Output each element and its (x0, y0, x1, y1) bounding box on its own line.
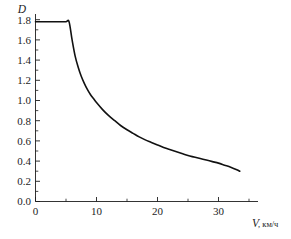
x-axis-label: V , км/ч (252, 217, 279, 229)
y-tick-label: 0.0 (17, 195, 31, 207)
x-axis-label-unit: , км/ч (258, 219, 279, 229)
y-tick-label: 1.0 (17, 94, 31, 106)
y-axis-tick-labels: 0.0 0.2 0.4 0.6 0.8 1.0 1.2 1.4 1.6 1.8 (17, 14, 31, 208)
y-tick-label: 0.8 (17, 115, 31, 127)
y-tick-label: 0.4 (17, 155, 31, 167)
y-tick-label: 0.2 (17, 175, 31, 187)
x-tick-label: 20 (152, 205, 164, 217)
data-series-line (36, 20, 240, 171)
y-tick-label: 1.6 (17, 34, 31, 46)
y-tick-label: 1.2 (17, 74, 31, 86)
x-tick-label: 0 (33, 205, 39, 217)
axes-group (36, 14, 259, 202)
x-tick-label: 30 (213, 205, 225, 217)
y-tick-label: 0.6 (17, 135, 31, 147)
x-axis-tick-labels: 0 10 20 30 (33, 205, 225, 217)
y-tick-label: 1.4 (17, 54, 31, 66)
y-tick-label: 1.8 (17, 14, 31, 26)
chart-canvas: 0.0 0.2 0.4 0.6 0.8 1.0 1.2 1.4 1.6 1.8 … (0, 0, 291, 239)
x-tick-label: 10 (91, 205, 103, 217)
y-axis-label: D (17, 3, 27, 15)
chart-figure: 0.0 0.2 0.4 0.6 0.8 1.0 1.2 1.4 1.6 1.8 … (0, 0, 291, 239)
